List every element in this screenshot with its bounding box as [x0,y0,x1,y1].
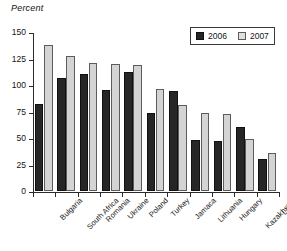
y-tick-label-125: 125 [12,54,26,65]
x-label-lithuania: Lithuania [216,196,244,224]
legend: 2006 2007 [190,27,275,45]
bar-ukraine-2007 [111,64,120,191]
legend-swatch-icon-2006 [196,32,204,40]
bar-kazakhstan-2007 [245,139,254,191]
legend-label-2006: 2006 [208,31,227,41]
bar-romania-2007 [89,63,98,191]
y-tick-label-25: 25 [17,160,26,171]
y-tick-label-150: 150 [12,27,26,38]
bar-hungary-2007 [223,114,232,191]
bar-romania-2006 [80,74,89,191]
bar-latvia-2007 [268,153,277,191]
x-axis-category-labels: BulgariaSouth AfricaRomaniaUkrainePoland… [33,196,287,251]
y-tick-75: 75 [29,113,33,114]
y-tick-125: 125 [29,60,33,61]
bar-lithuania-2007 [201,113,210,191]
bar-turkey-2007 [156,89,165,191]
legend-label-2007: 2007 [250,31,269,41]
bar-south-africa-2006 [57,78,66,191]
x-label-turkey: Turkey [169,196,192,219]
bar-lithuania-2006 [191,140,200,191]
legend-item-2007: 2007 [238,31,269,41]
legend-item-2006: 2006 [196,31,227,41]
bar-jamaca-2006 [169,91,178,191]
bar-bulgaria-2007 [44,45,53,191]
y-tick-label-100: 100 [12,80,26,91]
bar-kazakhstan-2006 [236,127,245,191]
y-axis-title: Percent [11,3,43,13]
bar-chart: Percent 0255075100125150 BulgariaSouth A… [0,0,287,251]
bar-latvia-2006 [258,159,267,191]
plot-area: 0255075100125150 [33,33,279,192]
x-axis-line [33,192,279,193]
bar-south-africa-2007 [66,56,75,191]
y-tick-150: 150 [29,33,33,34]
legend-swatch-icon-2007 [238,32,246,40]
bar-ukraine-2006 [102,90,111,191]
y-tick-label-0: 0 [21,186,26,197]
y-tick-100: 100 [29,86,33,87]
x-label-poland: Poland [147,196,170,219]
bar-bulgaria-2006 [35,104,44,191]
bar-poland-2006 [124,72,133,191]
y-tick-25: 25 [29,166,33,167]
y-tick-label-50: 50 [17,133,26,144]
bar-jamaca-2007 [178,105,187,191]
bar-poland-2007 [133,65,142,191]
bar-turkey-2006 [147,113,156,191]
x-label-jamaca: Jamaca [192,196,217,221]
y-tick-label-75: 75 [17,107,26,118]
x-label-bulgaria: Bulgaria [59,196,85,222]
y-tick-50: 50 [29,139,33,140]
bar-hungary-2006 [214,141,223,191]
